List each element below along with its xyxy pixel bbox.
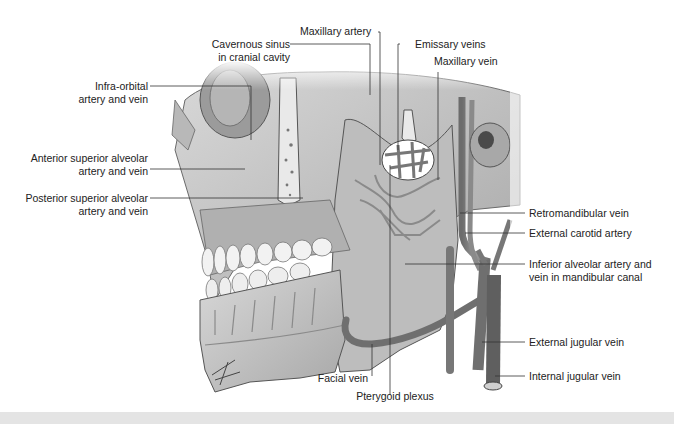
label-retromandibular-vein: Retromandibular vein xyxy=(529,207,629,220)
label-inferior-alveolar: Inferior alveolar artery and vein in man… xyxy=(529,258,652,283)
external-jugular-vein xyxy=(478,260,485,370)
label-external-jugular-vein: External jugular vein xyxy=(529,336,624,349)
label-external-carotid-artery: External carotid artery xyxy=(529,227,632,240)
label-maxillary-vein: Maxillary vein xyxy=(434,55,498,68)
label-pterygoid-plexus: Pterygoid plexus xyxy=(340,390,450,403)
label-maxillary-artery: Maxillary artery xyxy=(300,25,371,38)
label-internal-jugular-vein: Internal jugular vein xyxy=(529,370,621,383)
label-cavernous-sinus: Cavernous sinus in cranial cavity xyxy=(210,38,290,63)
bone-section xyxy=(278,78,300,206)
label-anterior-superior-alveolar: Anterior superior alveolar artery and ve… xyxy=(10,152,148,177)
anatomical-illustration: Maxillary artery Cavernous sinus in cran… xyxy=(0,0,674,424)
label-posterior-superior-alveolar: Posterior superior alveolar artery and v… xyxy=(10,192,148,217)
label-emissary-veins: Emissary veins xyxy=(415,38,486,51)
internal-jugular-vein xyxy=(493,275,494,385)
label-infra-orbital: Infra-orbital artery and vein xyxy=(60,80,148,105)
bottom-band xyxy=(0,412,674,424)
label-facial-vein: Facial vein xyxy=(300,372,368,385)
